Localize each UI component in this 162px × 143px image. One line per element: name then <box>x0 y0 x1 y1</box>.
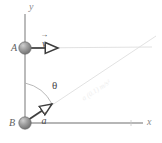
x-axis-label: x <box>147 117 151 127</box>
particle-a <box>19 42 31 54</box>
theta-angle-label: θ <box>52 80 57 91</box>
acceleration-vector-label: a <box>41 116 46 126</box>
point-b-label: B <box>9 118 15 128</box>
vector-diagram-figure: y x A B v a θ a (0.1) m/s² <box>0 0 162 143</box>
velocity-vector-label: v <box>42 39 46 49</box>
point-a-label: A <box>11 43 17 53</box>
y-axis-label: y <box>29 2 33 12</box>
theta-arc <box>25 83 52 104</box>
diagram-canvas <box>0 0 162 143</box>
particle-b <box>19 117 31 129</box>
